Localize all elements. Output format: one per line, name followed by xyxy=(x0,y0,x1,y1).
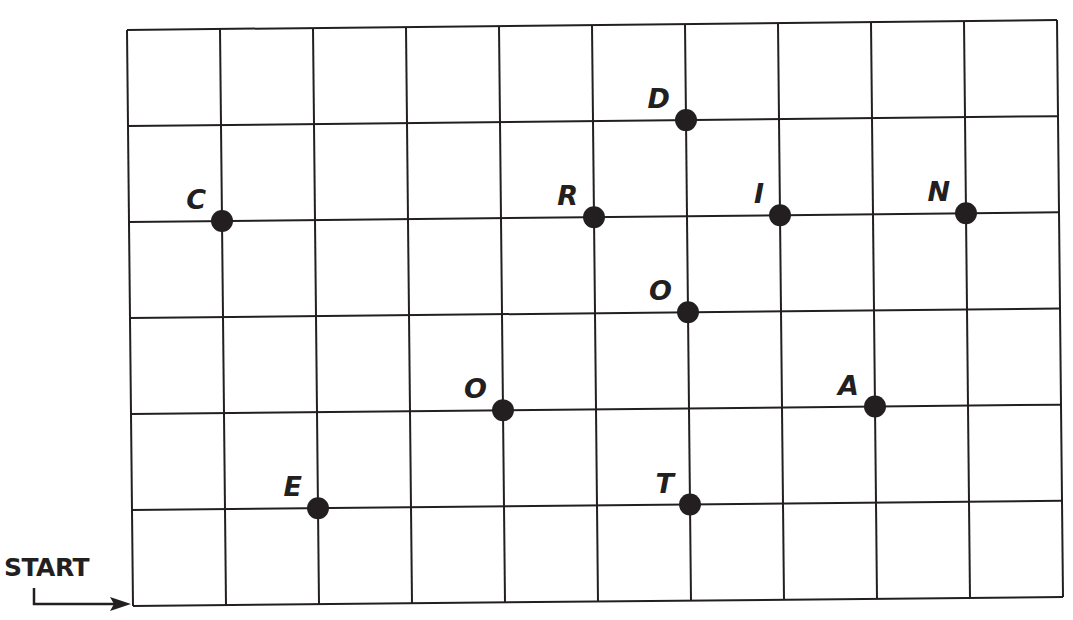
point-dot-icon xyxy=(955,202,977,224)
point-label: N xyxy=(927,176,950,207)
point-o: O xyxy=(464,373,514,421)
start-label: START xyxy=(4,553,89,582)
point-dot-icon xyxy=(583,206,605,228)
point-n: N xyxy=(927,176,977,224)
point-i: I xyxy=(754,178,791,226)
point-dot-icon xyxy=(307,497,329,519)
point-d: D xyxy=(648,83,697,131)
start-arrow-icon xyxy=(34,588,131,611)
point-label: E xyxy=(284,471,303,502)
point-label: R xyxy=(557,180,578,211)
grid-lines xyxy=(127,20,1063,606)
point-dot-icon xyxy=(492,399,514,421)
point-label: I xyxy=(754,178,764,209)
plotted-points: CRDINOOAET xyxy=(186,83,977,519)
point-label: O xyxy=(464,373,487,404)
point-label: O xyxy=(649,275,672,306)
point-a: A xyxy=(836,370,886,418)
point-c: C xyxy=(186,184,233,232)
point-dot-icon xyxy=(769,204,791,226)
point-e: E xyxy=(284,471,329,519)
point-dot-icon xyxy=(679,494,701,516)
point-label: A xyxy=(836,370,859,401)
point-label: C xyxy=(186,184,206,215)
point-dot-icon xyxy=(677,301,699,323)
point-label: T xyxy=(656,468,677,499)
point-r: R xyxy=(557,180,605,228)
point-label: D xyxy=(648,83,670,114)
point-o: O xyxy=(649,275,699,323)
point-dot-icon xyxy=(675,109,697,131)
point-dot-icon xyxy=(211,210,233,232)
point-t: T xyxy=(656,468,701,516)
coordinate-grid: CRDINOOAET xyxy=(0,0,1073,620)
point-dot-icon xyxy=(864,396,886,418)
